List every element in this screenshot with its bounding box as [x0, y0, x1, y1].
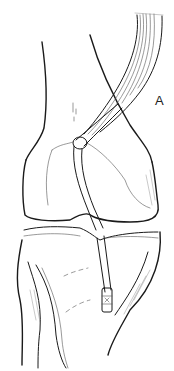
shading [30, 170, 155, 322]
graft-intra-left [74, 146, 96, 230]
panel-label: A [155, 94, 164, 107]
knee-illustration: A [0, 0, 174, 371]
tibia-right-edge [108, 232, 160, 355]
femoral-condyles [23, 160, 158, 222]
femur-left-edge [26, 42, 46, 160]
tibia-left-edge [17, 240, 22, 365]
tendon-bundle [84, 13, 163, 135]
joint-line [24, 227, 158, 240]
tibial-tunnel-left [97, 238, 105, 292]
tunnel-aperture [73, 137, 87, 149]
tibial-tunnel-right [104, 236, 111, 290]
knee-drawing-svg [0, 0, 174, 371]
femur-right-edge [90, 35, 152, 162]
